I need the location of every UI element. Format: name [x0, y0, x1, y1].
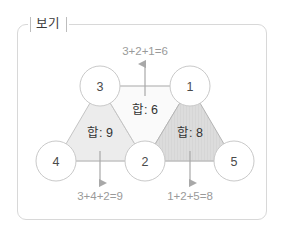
- node-2-label: 2: [142, 155, 149, 169]
- legend-label: 보기: [36, 18, 61, 31]
- annotation-bottom-left-text: 3+4+2=9: [77, 190, 123, 202]
- sum-label-right: 합: 8: [177, 126, 203, 140]
- legend-badge: 보기: [28, 14, 69, 35]
- diagram-screenshot: 보기: [0, 0, 285, 237]
- sum-label-left: 합: 9: [87, 126, 113, 140]
- legend-tick-left: [30, 17, 31, 32]
- annotation-bottom-right-text: 1+2+5=8: [167, 190, 213, 202]
- node-1[interactable]: 1: [170, 66, 210, 106]
- node-2[interactable]: 2: [125, 141, 165, 181]
- annotation-top-text: 3+2+1=6: [122, 45, 168, 57]
- node-5[interactable]: 5: [214, 141, 254, 181]
- node-3[interactable]: 3: [80, 66, 120, 106]
- node-5-label: 5: [231, 155, 238, 169]
- node-4-label: 4: [53, 155, 60, 169]
- lattice-diagram: 합: 9 합: 6 합: 8 3 1 4 2 5: [0, 0, 285, 237]
- node-4[interactable]: 4: [36, 141, 76, 181]
- node-3-label: 3: [97, 80, 104, 94]
- node-1-label: 1: [187, 80, 194, 94]
- legend-tick-right: [66, 17, 67, 32]
- sum-label-middle: 합: 6: [132, 103, 158, 117]
